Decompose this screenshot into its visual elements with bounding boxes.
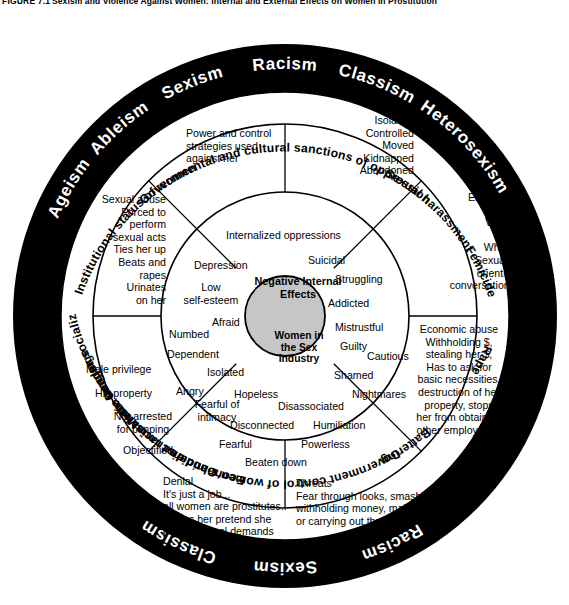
figure-caption: FIGURE 7.1 Sexism and Violence Against W… — [0, 0, 569, 26]
label-internalized-oppressions: Internalized oppressions — [226, 229, 341, 241]
internal-word-cautious: Cautious — [367, 350, 409, 362]
segment-isolation: Isolation Controlled Moved Kidnapped Aba… — [298, 114, 414, 177]
segment-economic-abuse: Economic abuse Withholding $, stealing h… — [396, 323, 522, 436]
segment-threats: Threats Fear through looks, smashing, wi… — [296, 477, 456, 527]
figure-title: Sexism and Violence Against Women: Inter… — [52, 0, 567, 7]
internal-word-numbed: Numbed — [169, 328, 209, 340]
segment-male-privilege-item-3: Objectified — [123, 444, 173, 456]
internal-word-disassociated: Disassociated — [278, 400, 344, 412]
figure-number: FIGURE 7.1 — [2, 0, 50, 6]
internal-word-disconnected: Disconnected — [230, 419, 294, 431]
outer-label-racism-top: Racism — [252, 54, 319, 75]
internal-word-low-self-esteem: Low self-esteem — [173, 281, 249, 306]
internal-word-shamed: Shamed — [334, 369, 373, 381]
core-circle-label: Women in the Sex Industry — [255, 330, 343, 365]
internal-word-fearful: Fearful — [219, 438, 252, 450]
segment-male-privilege-item-1: His property — [95, 387, 152, 399]
internal-word-angry: Angry — [176, 385, 204, 397]
internal-word-afraid: Afraid — [212, 316, 240, 328]
segment-sexual-abuse: Sexual abuse Forced to perform sexual ac… — [50, 193, 166, 306]
segment-male-privilege-item-2: Not arrested for pimping — [98, 410, 188, 435]
internal-word-beaten-down: Beaten down — [245, 456, 307, 468]
internal-word-depression: Depression — [194, 259, 248, 271]
internal-word-addicted: Addicted — [328, 297, 369, 309]
internal-word-powerless: Powerless — [301, 438, 350, 450]
internal-word-guilty: Guilty — [340, 340, 367, 352]
segment-denial: Denial It's just a job... all women are … — [163, 475, 303, 538]
segment-emotional-abuse: Emotional abuse Verbal Slut Whore Sexual… — [403, 191, 515, 292]
segment-male-privilege-item-0: Male privilege — [86, 363, 151, 375]
internal-word-humiliation: Humiliation — [313, 419, 365, 431]
internal-word-isolated: Isolated — [207, 366, 244, 378]
concentric-wheel-diagram: Racism Sexism Ableism Ageism Classism He… — [8, 33, 562, 599]
internal-word-dependent: Dependent — [167, 348, 219, 360]
internal-word-nightmares: Nightmares — [352, 388, 406, 400]
internal-word-suicidal: Suicidal — [308, 254, 345, 266]
internal-word-struggling: Struggling — [335, 273, 383, 285]
segment-power-and-control: Power and control strategies used agains… — [186, 127, 316, 165]
outer-label-sexism-bottom: Sexism — [252, 557, 318, 578]
